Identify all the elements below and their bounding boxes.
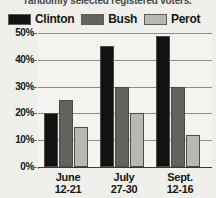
x-tick-label-range-2: 27-30 bbox=[95, 184, 153, 196]
bar-group-3 bbox=[156, 33, 204, 167]
legend-label-clinton: Clinton bbox=[35, 13, 74, 25]
y-tick-mark-30 bbox=[32, 87, 37, 88]
y-tick-label-20: 20% bbox=[0, 108, 34, 118]
x-tick-label-month-2: July bbox=[114, 171, 135, 183]
legend-item-bush: Bush bbox=[81, 13, 137, 25]
legend-swatch-clinton bbox=[8, 14, 31, 25]
legend-swatch-bush bbox=[81, 14, 104, 25]
y-tick-label-50: 50% bbox=[0, 28, 34, 38]
bar-perot-2 bbox=[130, 113, 144, 167]
bar-group-1 bbox=[44, 33, 92, 167]
gridline-0 bbox=[38, 167, 212, 168]
y-tick-mark-50 bbox=[32, 33, 37, 34]
x-tick-label-month-1: June bbox=[56, 171, 80, 183]
bar-perot-1 bbox=[74, 127, 88, 167]
legend-swatch-perot bbox=[144, 14, 167, 25]
legend-item-clinton: Clinton bbox=[8, 13, 74, 25]
y-tick-label-30: 30% bbox=[0, 82, 34, 92]
x-tick-label-range-3: 12-16 bbox=[151, 184, 209, 196]
bar-group-2 bbox=[100, 33, 148, 167]
y-tick-mark-20 bbox=[32, 113, 37, 114]
x-tick-label-2: July27-30 bbox=[95, 172, 153, 195]
chart-legend: Clinton Bush Perot bbox=[0, 11, 216, 27]
y-tick-mark-40 bbox=[32, 60, 37, 61]
bar-clinton-3 bbox=[156, 36, 170, 167]
legend-label-bush: Bush bbox=[108, 13, 137, 25]
bar-perot-3 bbox=[186, 135, 200, 167]
y-tick-mark-0 bbox=[32, 167, 37, 168]
chart-figure: randomly selected registered voters. Cli… bbox=[0, 0, 216, 198]
y-tick-label-10: 10% bbox=[0, 135, 34, 145]
bar-clinton-1 bbox=[44, 113, 58, 167]
y-tick-label-0: 0% bbox=[0, 162, 34, 172]
x-tick-label-month-3: Sept. bbox=[167, 171, 192, 183]
x-tick-label-3: Sept.12-16 bbox=[151, 172, 209, 195]
legend-item-perot: Perot bbox=[144, 13, 200, 25]
x-tick-label-range-1: 12-21 bbox=[39, 184, 97, 196]
bar-bush-1 bbox=[59, 100, 73, 167]
y-tick-mark-10 bbox=[32, 140, 37, 141]
figure-caption: randomly selected registered voters. bbox=[0, 0, 216, 6]
bar-bush-2 bbox=[115, 87, 129, 167]
y-tick-label-40: 40% bbox=[0, 55, 34, 65]
plot-area bbox=[38, 33, 212, 168]
x-tick-label-1: June12-21 bbox=[39, 172, 97, 195]
bar-bush-3 bbox=[171, 87, 185, 167]
legend-label-perot: Perot bbox=[171, 13, 200, 25]
bar-clinton-2 bbox=[100, 46, 114, 167]
